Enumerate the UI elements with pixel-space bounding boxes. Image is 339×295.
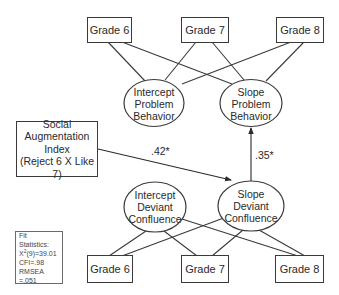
slope-problem-behavior-label: Slope Problem Behavior (220, 80, 282, 127)
bottom-indicator-grade-8: Grade 8 (275, 255, 324, 283)
label-line: Confluence (224, 212, 277, 224)
label-line: Deviant (137, 201, 173, 213)
top-indicator-grade-7: Grade 7 (181, 17, 229, 43)
fit-chi-square: X2(9)=39.01 (19, 249, 57, 258)
slope-deviant-confluence-label: Slope Deviant Confluence (218, 181, 284, 231)
fit-title-line1: Fit (19, 231, 27, 240)
top-indicator-grade-6: Grade 6 (87, 17, 132, 43)
top-loading-lines (108, 42, 304, 84)
label-line: Slope (238, 86, 265, 98)
top-indicator-grade-8: Grade 8 (276, 17, 324, 43)
label-line: Problem (231, 98, 270, 110)
fit-statistics-box: Fit Statistics: X2(9)=39.01 CFI=.98 RMSE… (15, 231, 63, 284)
intercept-deviant-confluence-label: Intercept Deviant Confluence (124, 182, 186, 232)
path-coefficient-slope-deviant-to-slope-problem: .35* (255, 149, 274, 161)
predictor-line: Augmentation (25, 130, 90, 143)
intercept-problem-behavior-label: Intercept Problem Behavior (124, 80, 184, 127)
label-line: Intercept (134, 86, 175, 98)
label-line: Problem (134, 98, 173, 110)
label-line: Confluence (128, 213, 181, 225)
label-line: Deviant (233, 200, 269, 212)
fit-cfi: CFI=.98 (19, 258, 44, 267)
chi-square-value: (9)=39.01 (26, 250, 56, 257)
label-line: Behavior (133, 110, 174, 122)
label-line: Behavior (230, 110, 271, 122)
label-line: Slope (238, 188, 265, 200)
predictor-line: Social (43, 118, 72, 131)
bottom-indicator-grade-7: Grade 7 (181, 255, 229, 283)
bottom-indicator-grade-6: Grade 6 (87, 255, 133, 283)
predictor-line: Index (44, 143, 70, 156)
predictor-line: (Reject 6 X Like 7) (17, 155, 97, 180)
label-line: Intercept (135, 189, 176, 201)
path-coefficient-social-to-slope-deviant: .42* (151, 145, 170, 157)
social-augmentation-index-box: Social Augmentation Index (Reject 6 X Li… (16, 121, 98, 177)
fit-rmsea: RMSEA =.051 (19, 267, 59, 285)
